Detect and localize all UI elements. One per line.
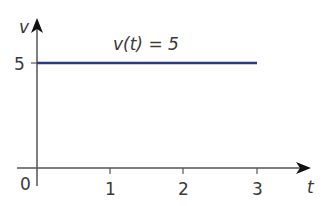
- x-axis-label: t: [307, 177, 315, 197]
- y-axis-label: v: [19, 17, 30, 37]
- origin-label: 0: [20, 174, 31, 194]
- x-tick-label-3: 3: [252, 179, 263, 199]
- function-annotation: v(t) = 5: [113, 34, 179, 54]
- velocity-chart: v t 0 1 2 3 5 v(t) = 5: [0, 0, 334, 206]
- x-tick-label-2: 2: [178, 179, 189, 199]
- x-tick-label-1: 1: [105, 179, 116, 199]
- y-tick-label-5: 5: [14, 54, 25, 74]
